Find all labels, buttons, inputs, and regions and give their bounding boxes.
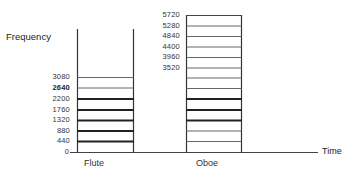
flute-tick-3080: 3080 [30, 73, 70, 81]
flute-column [77, 29, 134, 153]
oboe-label: Oboe [196, 158, 218, 168]
flute-tick-2640: 2640 [30, 84, 70, 92]
flute-tick-440: 440 [30, 137, 70, 145]
oboe-tick-4840: 4840 [140, 32, 180, 40]
flute-tick-0: 0 [29, 148, 69, 156]
time-axis-label: Time [322, 146, 342, 156]
flute-tick-880: 880 [30, 127, 70, 135]
oboe-tick-5280: 5280 [140, 22, 180, 30]
oboe-tick-4400: 4400 [140, 43, 180, 51]
flute-tick-2200: 2200 [30, 95, 70, 103]
oboe-tick-3520: 3520 [140, 64, 180, 72]
oboe-tick-3960: 3960 [140, 53, 180, 61]
frequency-axis-label: Frequency [6, 31, 51, 42]
oboe-tick-5720: 5720 [140, 11, 180, 19]
oboe-column [186, 15, 242, 153]
flute-tick-1320: 1320 [30, 116, 70, 124]
flute-label: Flute [84, 158, 104, 168]
flute-tick-1760: 1760 [30, 106, 70, 114]
